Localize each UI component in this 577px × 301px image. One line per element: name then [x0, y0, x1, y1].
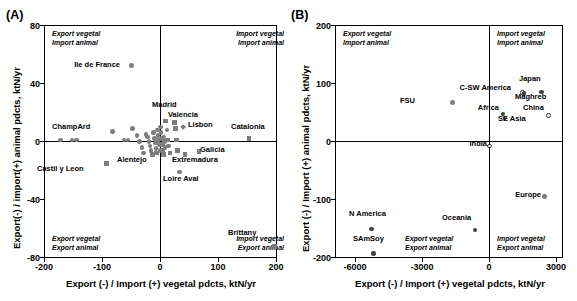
quad-line-1: Import vegetal: [497, 30, 545, 39]
data-point-brittany: [272, 244, 277, 249]
panel-b-xtick-neg3000: -3000: [402, 262, 442, 272]
panel-a-xtick-0: 0: [140, 262, 180, 272]
point-label-japan: Japan: [519, 74, 541, 83]
quad-line-2: Import animal: [343, 39, 391, 48]
data-point: [161, 152, 166, 157]
point-label-madrid: Madrid: [152, 100, 177, 109]
data-point-ile-de-france: [129, 63, 134, 68]
data-point-catalonia: [247, 136, 252, 141]
quad-line-2: Import animal: [52, 39, 100, 48]
point-label-extremadura: Extremadura: [172, 155, 218, 164]
panel-b-ytick-mark: [331, 141, 335, 142]
panel-b-xtick-0: 0: [469, 262, 509, 272]
panel-a-xtick-100: 100: [198, 262, 238, 272]
quad-line-1: Import vegetal: [497, 235, 545, 244]
panel-b-xtick-3000: 3000: [536, 262, 576, 272]
panel-b: (B) 200 100 0 -100 -200 -6000 -3000 0 30…: [287, 0, 577, 301]
point-label-catalonia: Catalonia: [231, 122, 265, 131]
data-point-madrid: [163, 119, 168, 124]
data-point-castil-y-leon: [104, 161, 109, 166]
panel-a-ytick-mark: [40, 83, 44, 84]
panel-a-xtick-neg100: -100: [82, 262, 122, 272]
panel-a-quad-topright: Import vegetal Import animal: [236, 30, 284, 48]
point-label-ile-de-france: Ile de France: [50, 60, 120, 69]
data-point-fsu: [450, 100, 455, 105]
panel-a-xtick-mark: [160, 258, 161, 262]
panel-a-quad-topleft: Export vegetal Import animal: [52, 30, 100, 48]
panel-b-quad-topleft: Export vegetal Import animal: [343, 30, 391, 48]
quad-line-1: Export vegetal: [52, 235, 100, 244]
panel-b-ytick-neg200: -200: [303, 253, 331, 263]
data-point: [158, 125, 163, 130]
panel-b-quad-bottomleft: Export vegetal Export animal: [405, 235, 453, 253]
data-point-n-america: [369, 227, 374, 232]
data-point: [165, 138, 170, 143]
panel-b-zero-vline: [489, 26, 490, 257]
panel-b-ytick-mark: [331, 83, 335, 84]
panel-b-xtick-mark: [355, 258, 356, 262]
panel-b-x-axis-label: Export (-) / Import (+) vegetal pdcts, k…: [325, 278, 575, 289]
panel-b-xtick-mark: [556, 258, 557, 262]
quad-line-1: Export vegetal: [343, 30, 391, 39]
panel-b-y-axis-label: Export (-) / Import (+) animal pdcts, kt…: [300, 65, 311, 252]
point-label-oceania: Oceania: [442, 213, 471, 222]
quad-line-2: Export animal: [52, 244, 100, 253]
point-label-fsu: FSU: [367, 96, 415, 105]
panel-a-xtick-neg200: -200: [24, 262, 64, 272]
point-label-china: China: [523, 103, 544, 112]
data-point-china: [546, 113, 551, 118]
panel-a-xtick-mark: [218, 258, 219, 262]
point-label-valencia: Valencia: [168, 110, 198, 119]
data-point-valencia: [172, 120, 177, 125]
data-point-samsoy: [371, 251, 376, 256]
point-label-brittany: Brittany: [228, 228, 256, 237]
panel-b-ytick-mark: [331, 257, 335, 258]
quad-line-1: Import vegetal: [236, 30, 284, 39]
panel-b-ytick-200: 200: [303, 21, 331, 31]
data-point: [173, 126, 178, 131]
data-point-champard: [58, 138, 63, 143]
panel-b-xtick-mark: [422, 258, 423, 262]
point-label-africa: Africa: [465, 103, 499, 112]
quad-line-2: Export animal: [405, 244, 453, 253]
point-label-lisbon: Lisbon: [188, 120, 213, 129]
point-label-india: India: [447, 139, 487, 148]
point-label-galicia: Galicia: [200, 145, 225, 154]
data-point-europe: [542, 194, 547, 199]
panel-b-quad-bottomright: Import vegetal Export animal: [497, 235, 545, 253]
quad-line-2: Import animal: [236, 39, 284, 48]
panel-b-letter: (B): [291, 8, 308, 22]
panel-b-ytick-mark: [331, 25, 335, 26]
data-point: [175, 148, 180, 153]
point-label-europe: Europe: [487, 190, 541, 199]
panel-a-xtick-mark: [44, 258, 45, 262]
point-label-n-america: N America: [349, 209, 386, 218]
point-label-c-sw-america: C-SW America: [435, 83, 511, 92]
panel-a-x-axis-label: Export (-) / Import (+) vegetal pdcts, k…: [36, 278, 286, 289]
panel-a-xtick-mark: [102, 258, 103, 262]
quad-line-2: Import animal: [497, 39, 545, 48]
panel-a-ytick-80: 80: [14, 21, 40, 31]
point-label-samsoy: SAmSoy: [353, 234, 384, 243]
point-label-maghreb: Maghreb: [515, 92, 546, 101]
point-label-loire-aval: Loire Aval: [163, 174, 199, 183]
panel-a-ytick-mark: [40, 141, 44, 142]
panel-b-xtick-neg6000: -6000: [335, 262, 375, 272]
point-label-se-asia: SE Asia: [498, 114, 526, 123]
panel-b-ytick-mark: [331, 199, 335, 200]
panel-a: (A) 80 40 0 -40 -80 -200 -100 0 100 200 …: [0, 0, 290, 301]
data-point: [137, 139, 142, 144]
point-label-castil-y-leon: Castil y Leon: [37, 164, 84, 173]
panel-a-y-axis-label: Export(-) / import(+) animal pdcts, ktN/…: [11, 67, 22, 249]
data-point: [174, 138, 179, 143]
panel-a-letter: (A): [6, 8, 23, 22]
quad-line-1: Export vegetal: [52, 30, 100, 39]
quad-line-2: Export animal: [497, 244, 545, 253]
panel-a-xtick-mark: [276, 258, 277, 262]
panel-a-ytick-mark: [40, 199, 44, 200]
data-point: [110, 129, 115, 134]
point-label-champard: ChampArd: [52, 122, 90, 131]
data-point: [166, 144, 171, 149]
figure-root: (A) 80 40 0 -40 -80 -200 -100 0 100 200 …: [0, 0, 577, 301]
data-point: [140, 145, 145, 150]
